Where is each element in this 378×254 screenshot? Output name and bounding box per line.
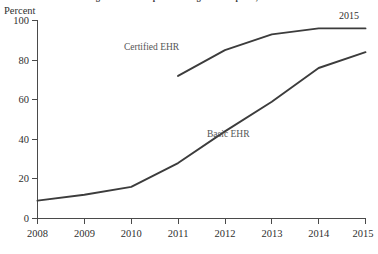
series-line-certified-ehr (178, 28, 365, 76)
series-label-certified-ehr: Certified EHR (124, 42, 180, 52)
x-tick-label-2010: 2010 (121, 228, 142, 239)
x-tick-label-2011: 2011 (168, 228, 189, 239)
series-line-basic-ehr (38, 52, 366, 201)
y-tick-label-20: 20 (19, 173, 30, 184)
annotation-2015: 2015 (339, 10, 359, 21)
y-tick-label-0: 0 (24, 213, 29, 224)
y-tick-label-80: 80 (19, 55, 30, 66)
y-tick-label-60: 60 (19, 94, 30, 105)
chart-root: Figure. EHR Adoption Among U.S. Hospital… (0, 0, 378, 254)
y-tick-label-40: 40 (19, 134, 30, 145)
x-tick-labels: 2008 2009 2010 2011 2012 2013 2014 2015 (27, 228, 374, 239)
x-axis-ticks (38, 219, 366, 225)
y-tick-label-100: 100 (13, 15, 29, 26)
x-tick-label-2012: 2012 (215, 228, 236, 239)
x-tick-label-2014: 2014 (308, 228, 330, 239)
y-tick-labels: 100 80 60 40 20 0 (13, 15, 29, 224)
series-label-basic-ehr: Basic EHR (207, 129, 250, 139)
line-chart-canvas: Percent 100 80 60 40 20 0 2008 2009 2010… (0, 0, 378, 254)
x-tick-label-2013: 2013 (261, 228, 282, 239)
y-axis-ticks (32, 21, 38, 219)
x-tick-label-2009: 2009 (74, 228, 95, 239)
x-tick-label-2008: 2008 (27, 228, 48, 239)
x-tick-label-2015: 2015 (353, 228, 374, 239)
